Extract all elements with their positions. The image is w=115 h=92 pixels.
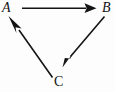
edge-c-to-a xyxy=(9,16,53,78)
edge-a-to-b xyxy=(22,3,97,13)
edge-b-to-c-arrowhead-icon xyxy=(63,53,73,67)
node-label-a: A xyxy=(2,1,11,15)
edge-c-to-a-line xyxy=(19,30,53,78)
node-label-c: C xyxy=(54,75,63,89)
node-label-b: B xyxy=(102,1,111,15)
edge-b-to-c-line xyxy=(71,17,105,57)
edge-a-to-b-arrowhead-icon xyxy=(85,3,97,13)
directed-graph-diagram: A B C xyxy=(0,0,115,92)
edge-b-to-c xyxy=(63,17,105,68)
